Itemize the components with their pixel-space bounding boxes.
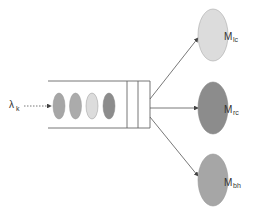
- dispatch-arrow-bh: [150, 117, 198, 176]
- svg-text:bh: bh: [233, 182, 241, 189]
- queue-job-1: [53, 93, 65, 119]
- svg-text:M: M: [224, 177, 232, 188]
- server-label-rc: M rc: [224, 104, 239, 116]
- svg-text:lc: lc: [233, 36, 239, 43]
- lambda-symbol: λ: [9, 99, 14, 110]
- svg-text:M: M: [224, 104, 232, 115]
- arrival-rate-label: λ k: [9, 99, 20, 112]
- svg-text:M: M: [224, 31, 232, 42]
- lambda-subscript: k: [16, 105, 20, 112]
- svg-text:rc: rc: [233, 109, 239, 116]
- queue-job-3: [86, 93, 98, 119]
- server-label-bh: M bh: [224, 177, 241, 189]
- queue-diagram: λ k M lc M rc M bh: [0, 0, 253, 211]
- server-label-lc: M lc: [224, 31, 239, 43]
- dispatch-arrow-lc: [150, 38, 198, 99]
- queue-job-2: [70, 93, 82, 119]
- queue-job-4: [103, 93, 115, 119]
